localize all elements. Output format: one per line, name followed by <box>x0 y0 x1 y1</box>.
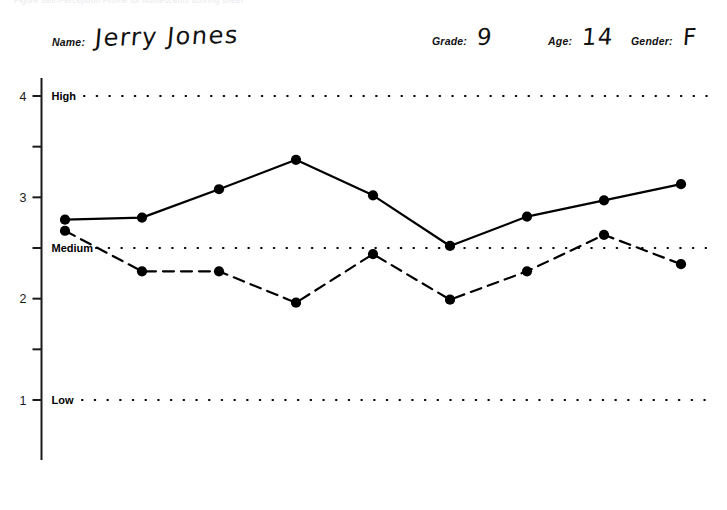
profile-chart: 1234 HighMediumLow ScholasticcompetenceA… <box>0 60 727 460</box>
age-field-value: 14 <box>581 25 615 49</box>
grade-field-label: Grade: <box>432 35 467 47</box>
age-field[interactable]: Age: 14 <box>548 26 613 49</box>
profile-chart-svg: 1234 HighMediumLow ScholasticcompetenceA… <box>0 60 727 460</box>
svg-text:High: High <box>52 90 77 102</box>
y-axis-ticks-group: 1234 <box>20 90 42 408</box>
svg-text:3: 3 <box>20 191 27 205</box>
svg-text:4: 4 <box>20 90 27 104</box>
anchor-labels-group: HighMediumLow <box>52 90 94 406</box>
name-field-label: Name: <box>52 36 85 48</box>
svg-text:Medium: Medium <box>52 242 94 254</box>
svg-text:2: 2 <box>20 292 27 306</box>
name-field[interactable]: Name: Jerry Jones <box>52 26 238 50</box>
reference-lines-group <box>82 96 716 400</box>
scoring-sheet: Figure Self-Perception Profile for Adole… <box>0 0 727 510</box>
age-field-label: Age: <box>548 35 572 47</box>
svg-text:Low: Low <box>52 394 74 406</box>
gender-field[interactable]: Gender: F <box>631 26 696 49</box>
figure-caption: Figure Self-Perception Profile for Adole… <box>14 0 674 8</box>
student-info-form: Name: Jerry Jones Grade: 9 Age: 14 Gende… <box>0 18 727 60</box>
data-series-group <box>60 155 686 308</box>
grade-field[interactable]: Grade: 9 <box>432 26 492 49</box>
gender-field-label: Gender: <box>631 35 673 47</box>
grade-field-value: 9 <box>476 26 494 49</box>
name-field-value: Jerry Jones <box>94 23 240 50</box>
svg-text:1: 1 <box>20 394 27 408</box>
gender-field-value: F <box>682 26 698 49</box>
